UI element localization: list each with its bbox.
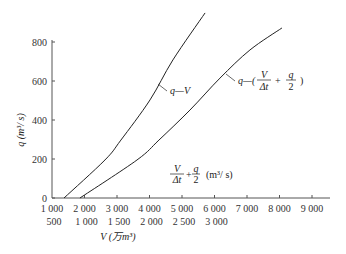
secondary-plus: + [186, 169, 192, 180]
leader-line-curve2 [226, 74, 235, 81]
x-tick-label-bottom: 2 000 [140, 216, 163, 227]
curve2-plus: + [275, 75, 281, 86]
leader-line-curve1 [158, 84, 167, 91]
x-tick-label-top: 6 000 [203, 203, 226, 214]
chart: 0200400600800 1 0002 0003 0004 0005 0006… [0, 0, 346, 254]
curve-q-v [64, 13, 205, 198]
curve2-frac-q-den: 2 [289, 81, 294, 92]
curve2-frac-q-num: q [289, 69, 294, 80]
curve2-label-prefix: q—( [238, 75, 256, 87]
y-tick-label: 600 [32, 76, 47, 87]
x-axis-label: V (万m³) [100, 231, 136, 243]
y-tick-label: 800 [32, 37, 47, 48]
curve2-label-suffix: ) [300, 75, 303, 87]
curve1-label: q—V [170, 85, 192, 96]
curve2-frac-v-num: V [261, 69, 269, 80]
x-tick-label-bottom: 3 000 [205, 216, 228, 227]
x-tick-label-bottom: 2 500 [173, 216, 196, 227]
x-tick-label-top: 8 000 [268, 203, 291, 214]
curve-q-v-dt [80, 28, 282, 198]
x-tick-label-top: 5 000 [171, 203, 194, 214]
secondary-frac-v-num: V [174, 163, 182, 174]
secondary-frac-q-num: q [194, 163, 199, 174]
y-tick-label: 0 [42, 193, 47, 204]
x-tick-label-top: 3 000 [106, 203, 129, 214]
x-tick-label-top: 2 000 [73, 203, 96, 214]
x-tick-label-top: 1 000 [41, 203, 64, 214]
x-tick-label-top: 4 000 [138, 203, 161, 214]
x-tick-label-bottom: 500 [47, 216, 62, 227]
x-ticks: 1 0002 0003 0004 0005 0006 0007 0008 000… [41, 195, 324, 227]
x-tick-label-top: 7 000 [236, 203, 259, 214]
curve2-frac-v-den: Δt [259, 81, 269, 92]
y-tick-label: 200 [32, 154, 47, 165]
y-tick-label: 400 [32, 115, 47, 126]
x-tick-label-top: 9 000 [301, 203, 324, 214]
secondary-unit: (m³/ s) [206, 169, 233, 181]
secondary-frac-v-den: Δt [172, 174, 182, 185]
x-tick-label-bottom: 1 500 [108, 216, 131, 227]
x-tick-label-bottom: 1 000 [75, 216, 98, 227]
secondary-frac-q-den: 2 [194, 174, 199, 185]
y-axis-label: q (m³/ s) [15, 113, 27, 147]
